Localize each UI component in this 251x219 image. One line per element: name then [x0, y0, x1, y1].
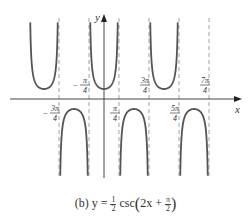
caption-argument: 2x + [140, 196, 165, 210]
svg-text:3π: 3π [140, 76, 150, 85]
figure-caption: (b) y = 12 csc(2x + π2) [0, 195, 251, 213]
svg-text:π: π [83, 76, 88, 85]
svg-text:−: − [43, 109, 48, 118]
svg-text:−: − [73, 81, 78, 90]
svg-text:4: 4 [83, 86, 87, 95]
tick-label-five-pi-4: 5π4 [170, 104, 180, 123]
svg-text:7π: 7π [201, 76, 210, 85]
asymptote-lines [59, 18, 209, 176]
x-axis-label: x [234, 103, 240, 115]
tick-label-pi-4: π4 [110, 104, 120, 123]
curve-branch-down [180, 109, 208, 176]
graph-svg: y x π4−3π47π43π4−π45π4 [0, 0, 251, 219]
svg-text:π: π [113, 104, 118, 113]
y-axis-label: y [94, 11, 100, 23]
curve-branch-down [60, 109, 88, 176]
tick-label-neg-three-pi-4: 3π4− [43, 104, 60, 123]
svg-text:4: 4 [143, 86, 147, 95]
svg-text:4: 4 [113, 114, 117, 123]
svg-text:3π: 3π [50, 104, 60, 113]
tick-label-seven-pi-4: 7π4 [200, 76, 210, 95]
svg-text:5π: 5π [171, 104, 180, 113]
tick-label-neg-pi-4: π4− [73, 76, 90, 95]
caption-prefix: (b) y = [75, 196, 111, 210]
curve-branch-down [120, 109, 148, 176]
caption-function: csc [116, 196, 134, 210]
svg-text:4: 4 [53, 114, 57, 123]
svg-text:4: 4 [203, 86, 207, 95]
y-axis-arrow-icon [101, 14, 107, 22]
curve-branch-up [30, 22, 58, 89]
svg-text:4: 4 [173, 114, 177, 123]
curve-branch-up [150, 22, 178, 89]
x-axis-arrow-icon [234, 96, 242, 102]
tick-label-three-pi-4: 3π4 [140, 76, 150, 95]
